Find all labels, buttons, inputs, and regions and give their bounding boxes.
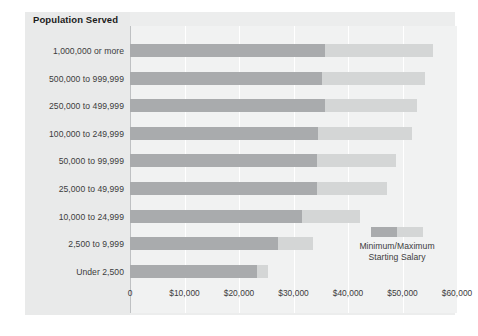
x-tick-label-20000: $20,000 [224,288,255,298]
bar-row [130,44,457,57]
bar-segment-maximum [322,72,425,85]
category-label: 25,000 to 49,999 [59,184,124,194]
bar-row [130,127,457,140]
bar-segment-minimum [130,182,317,195]
bar-segment-minimum [130,44,325,57]
bar-segment-maximum [302,210,360,223]
population-served-header: Population Served [33,14,118,25]
category-label: 250,000 to 499,999 [49,101,124,111]
bar-segment-maximum [257,265,268,278]
bar-row [130,210,457,223]
bar-segment-minimum [130,237,278,250]
chart-container: Population Served 1,000,000 or more500,0… [0,0,478,336]
gridline-60000 [457,26,458,313]
category-label: 1,000,000 or more [53,46,124,56]
bar-segment-maximum [278,237,313,250]
category-label: 50,000 to 99,999 [59,156,124,166]
bar-segment-minimum [130,154,317,167]
bar-row [130,99,457,112]
bar-segment-maximum [325,99,417,112]
bar-segment-maximum [317,182,387,195]
category-label: 10,000 to 24,999 [59,212,124,222]
bar-segment-minimum [130,127,318,140]
bar-row [130,72,457,85]
bar-row [130,265,457,278]
category-label: 100,000 to 249,999 [49,129,124,139]
legend-swatch [371,227,423,237]
legend-label-line-2: Starting Salary [337,252,457,263]
x-tick-label-60000: $60,000 [442,288,473,298]
bar-row [130,154,457,167]
category-label: 500,000 to 999,999 [49,74,124,84]
bar-segment-minimum [130,99,325,112]
legend-swatch-maximum [397,227,423,237]
bar-segment-maximum [317,154,396,167]
bar-segment-maximum [325,44,433,57]
legend-swatch-minimum [371,227,397,237]
x-tick-label-50000: $50,000 [387,288,418,298]
bar-segment-minimum [130,210,302,223]
bar-segment-maximum [318,127,412,140]
x-tick-label-40000: $40,000 [333,288,364,298]
x-tick-label-30000: $30,000 [278,288,309,298]
x-tick-label-0: 0 [128,288,133,298]
category-label: 2,500 to 9,999 [68,239,124,249]
legend-label-line-1: Minimum/Maximum [337,241,457,252]
bar-segment-minimum [130,72,322,85]
bar-row [130,182,457,195]
chart-legend: Minimum/Maximum Starting Salary [337,227,457,263]
category-label: Under 2,500 [76,267,124,277]
bar-segment-minimum [130,265,257,278]
x-tick-label-10000: $10,000 [169,288,200,298]
